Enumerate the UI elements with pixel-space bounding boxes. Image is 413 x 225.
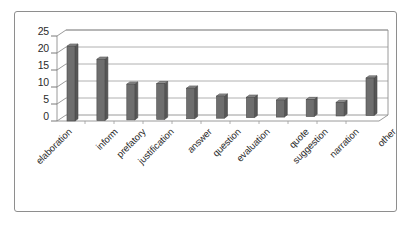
bar-side-quote bbox=[284, 98, 287, 117]
bar-prefatory bbox=[127, 84, 135, 120]
bar-quote bbox=[276, 100, 284, 117]
bar-side-evaluation bbox=[254, 95, 257, 118]
bar-side-answer bbox=[195, 86, 198, 119]
bar-justification bbox=[157, 84, 165, 120]
bar-other bbox=[366, 78, 374, 115]
bar-question bbox=[217, 96, 225, 118]
bar-narration bbox=[336, 102, 344, 116]
bar-evaluation bbox=[246, 97, 254, 117]
bar-elaboration bbox=[67, 46, 75, 121]
bar-inform bbox=[97, 59, 105, 120]
plot-area bbox=[0, 0, 413, 225]
bar-side-question bbox=[225, 94, 228, 118]
bar-side-elaboration bbox=[75, 44, 78, 121]
bar-suggestion bbox=[306, 100, 314, 117]
bar-side-suggestion bbox=[314, 97, 317, 116]
bar-answer bbox=[187, 88, 195, 119]
chart-page: 25 20 15 10 5 0 elaboration inform prefa… bbox=[0, 0, 413, 225]
bar-side-prefatory bbox=[135, 82, 138, 120]
bar-side-justification bbox=[165, 81, 168, 119]
bar-side-narration bbox=[344, 100, 347, 116]
bar-side-inform bbox=[105, 57, 108, 120]
bar-side-other bbox=[374, 76, 377, 116]
